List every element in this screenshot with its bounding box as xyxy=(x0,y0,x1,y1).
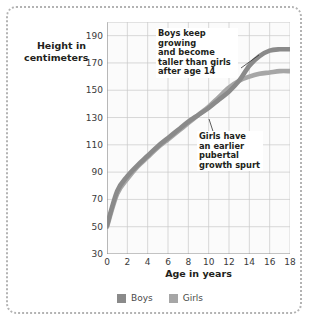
legend-swatch-icon xyxy=(117,294,126,303)
y-tick-label: 50 xyxy=(92,222,103,232)
y-tick-label: 170 xyxy=(86,58,103,68)
legend-label: Girls xyxy=(183,293,203,303)
legend-item-boys[interactable]: Boys xyxy=(117,293,153,303)
x-tick-label: 8 xyxy=(185,257,191,267)
legend-item-girls[interactable]: Girls xyxy=(169,293,203,303)
chart-figure: Height in centimeters 190170150130110907… xyxy=(0,0,310,321)
x-tick-label: 12 xyxy=(223,257,234,267)
x-axis-title: Age in years xyxy=(107,268,290,279)
y-tick-label: 90 xyxy=(92,167,103,177)
x-tick-label: 4 xyxy=(145,257,151,267)
y-tick-label: 70 xyxy=(92,194,103,204)
x-tick-label: 0 xyxy=(104,257,110,267)
x-tick-label: 10 xyxy=(203,257,214,267)
y-axis-title: Height in centimeters xyxy=(24,40,86,63)
legend-swatch-icon xyxy=(169,294,178,303)
x-tick-label: 14 xyxy=(244,257,255,267)
x-tick-label: 2 xyxy=(124,257,130,267)
y-axis-title-line2: centimeters xyxy=(24,52,86,64)
y-tick-label: 130 xyxy=(86,113,103,123)
x-tick-label: 16 xyxy=(264,257,275,267)
chart-legend: BoysGirls xyxy=(100,290,220,306)
y-tick-label: 190 xyxy=(86,31,103,41)
y-tick-label: 150 xyxy=(86,85,103,95)
y-tick-label: 110 xyxy=(86,140,103,150)
x-tick-label: 6 xyxy=(165,257,171,267)
legend-label: Boys xyxy=(131,293,153,303)
x-tick-label: 18 xyxy=(284,257,295,267)
annotation-boys-note: Boys keep growing and become taller than… xyxy=(156,28,238,78)
annotation-girls-note: Girls have an earlier pubertal growth sp… xyxy=(197,131,263,171)
y-tick-label: 30 xyxy=(92,249,103,259)
y-axis-title-line1: Height in xyxy=(24,40,86,52)
